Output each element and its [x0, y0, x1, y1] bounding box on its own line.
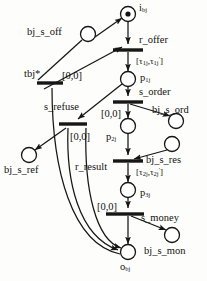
arc-srefuse-obj [68, 128, 118, 250]
place-bj_s_ref[interactable] [22, 148, 37, 163]
transition-label-r_offer: r_offer [139, 35, 168, 46]
place-label-o_bj: obj [120, 262, 130, 273]
place-label-bj_s_mon: bj_s_mon [144, 246, 185, 257]
place-label-bj_s_ref: bj_s_ref [4, 165, 38, 176]
transition-label-s_refuse: s_refuse [44, 102, 79, 113]
arc-srefuse-bjsref [35, 128, 66, 150]
place-label-p_1j: p1j [140, 73, 150, 84]
place-bj_s_mon[interactable] [165, 228, 180, 243]
transition-label-s_order: s_order [139, 87, 171, 98]
petri-net-canvas [0, 0, 207, 281]
interval-label-r_offer: [τ1j,τ1j′] [136, 56, 163, 67]
place-bj_s_ord[interactable] [169, 114, 184, 129]
interval-label-s_order: [0,0] [101, 109, 121, 120]
place-bj_s_res[interactable] [165, 137, 180, 152]
transition-label-s_money: s_money [141, 213, 179, 224]
place-label-bj_s_res: bj_s_res [146, 155, 181, 166]
place-label-bj_s_off: bj_s_off [27, 27, 62, 38]
interval-label-r_result: [τ2j,τ2j′] [136, 167, 163, 178]
transition-r_result[interactable] [113, 159, 143, 162]
transition-s_order[interactable] [113, 100, 143, 103]
place-p_1j[interactable] [121, 72, 136, 87]
place-label-bj_s_ord: bj_s_ord [152, 105, 189, 116]
interval-label-tbj-star: [0,0] [62, 71, 82, 82]
interval-label-s_refuse: [0,0] [70, 132, 90, 143]
transition-r_offer[interactable] [113, 48, 143, 51]
transition-label-tbj-star: tbj* [24, 69, 40, 80]
transition-tbj_star[interactable] [37, 81, 63, 84]
place-label-p_3j: p3j [140, 188, 150, 199]
place-o_bj[interactable] [121, 245, 136, 260]
transition-label-r_result: r_result [75, 162, 107, 173]
place-p_3j[interactable] [121, 183, 136, 198]
transition-s_money[interactable] [106, 212, 144, 215]
transition-s_refuse[interactable] [59, 122, 87, 125]
place-bj_s_off[interactable] [81, 27, 96, 42]
place-p_2j[interactable] [121, 119, 136, 134]
token-i_bj [125, 11, 130, 16]
place-label-p_2j: p2j [106, 132, 116, 143]
interval-label-s_money: [0,0] [97, 202, 117, 213]
petri-net-diagram: ibj bj_s_off r_offer [τ1j,τ1j′] tbj* [0,… [0, 0, 207, 281]
place-label-i_bj: ibj [139, 3, 147, 14]
arc-bjsoff-ibj [95, 18, 122, 37]
